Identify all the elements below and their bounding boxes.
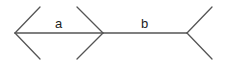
segment-label-b: b xyxy=(141,16,148,31)
middle-fin-top xyxy=(77,7,103,33)
diagram-canvas: a b xyxy=(0,0,227,67)
middle-fin-bottom xyxy=(77,33,103,59)
segment-label-a: a xyxy=(55,16,63,31)
right-fin-bottom xyxy=(187,33,212,59)
right-fin-top xyxy=(187,7,212,33)
left-fin-top xyxy=(15,7,40,33)
muller-lyer-diagram: a b xyxy=(0,0,227,67)
left-fin-bottom xyxy=(15,33,40,59)
